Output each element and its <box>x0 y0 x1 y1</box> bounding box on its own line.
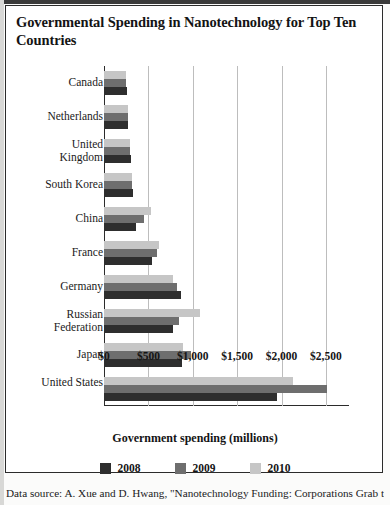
bar-2008 <box>104 189 133 197</box>
x-tick-label: $1,000 <box>177 350 209 362</box>
legend-label: 2008 <box>118 462 141 474</box>
x-tick-label: $2,500 <box>310 350 342 362</box>
y-axis-category-labels: CanadaNetherlandsUnitedKingdomSouth Kore… <box>6 66 103 406</box>
y-axis-label: Germany <box>6 280 103 293</box>
bar-2009 <box>104 283 177 291</box>
bar-2010 <box>104 207 151 215</box>
x-tick-label: $0 <box>98 350 110 362</box>
x-axis-title: Government spending (millions) <box>6 431 384 446</box>
bar-2008 <box>104 291 181 299</box>
bar-2009 <box>104 79 126 87</box>
legend-swatch-icon <box>250 463 261 474</box>
y-axis-label: Canada <box>6 76 103 89</box>
bar-2010 <box>104 377 293 385</box>
legend-label: 2010 <box>268 462 291 474</box>
bar-2010 <box>104 71 126 79</box>
y-axis-label: RussianFederation <box>6 308 103 334</box>
y-axis-label: China <box>6 212 103 225</box>
bar-2008 <box>104 393 277 401</box>
bar-2010 <box>104 173 132 181</box>
bar-2010 <box>104 105 128 113</box>
bar-2008 <box>104 257 152 265</box>
scan-edge-top <box>0 0 390 4</box>
bar-2009 <box>104 215 144 223</box>
chart-figure-box: Governmental Spending in Nanotechnology … <box>5 5 383 473</box>
legend-swatch-icon <box>175 463 186 474</box>
bar-2010 <box>104 241 159 249</box>
chart-title: Governmental Spending in Nanotechnology … <box>16 14 368 49</box>
figure-page: Governmental Spending in Nanotechnology … <box>0 0 390 505</box>
y-axis-label: Japan <box>6 348 103 361</box>
legend-item-2008: 2008 <box>100 458 141 478</box>
chart-legend: 200820092010 <box>6 458 384 478</box>
bar-2009 <box>104 147 130 155</box>
y-axis-label: UnitedKingdom <box>6 138 103 164</box>
bar-2009 <box>104 113 128 121</box>
bar-2009 <box>104 249 157 257</box>
y-axis-label: France <box>6 246 103 259</box>
legend-swatch-icon <box>100 463 111 474</box>
legend-item-2010: 2010 <box>250 458 291 478</box>
x-tick-label: $2,000 <box>266 350 298 362</box>
figure-caption: Data source: A. Xue and D. Hwang, "Nanot… <box>6 487 384 500</box>
scan-edge-left <box>0 0 4 505</box>
bar-2008 <box>104 325 173 333</box>
legend-label: 2009 <box>193 462 216 474</box>
y-axis-label: Netherlands <box>6 110 103 123</box>
bar-2010 <box>104 139 130 147</box>
x-tick-label: $500 <box>137 350 160 362</box>
bar-2008 <box>104 87 127 95</box>
x-axis-baseline <box>104 405 349 406</box>
bar-2010 <box>104 275 173 283</box>
bar-2009 <box>104 317 179 325</box>
y-axis-label: United States <box>6 376 103 389</box>
bar-2009 <box>104 385 327 393</box>
y-axis-label: South Korea <box>6 178 103 191</box>
bar-2009 <box>104 181 132 189</box>
bar-2008 <box>104 223 136 231</box>
bar-2008 <box>104 155 131 163</box>
legend-item-2009: 2009 <box>175 458 216 478</box>
bar-2010 <box>104 309 200 317</box>
bar-2008 <box>104 121 128 129</box>
x-axis-tick-labels: $0$500$1,000$1,500$2,000$2,500 <box>104 350 364 366</box>
x-tick-label: $1,500 <box>221 350 253 362</box>
